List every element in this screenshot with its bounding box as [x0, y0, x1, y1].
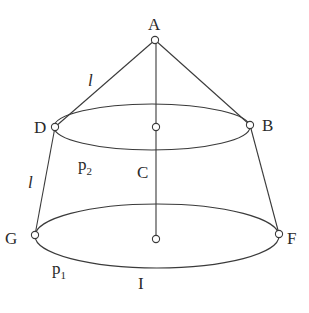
point-F	[275, 230, 282, 237]
label-p1: p1	[52, 259, 66, 281]
label-F: F	[287, 229, 296, 248]
label-B: B	[262, 116, 273, 135]
point-A	[151, 36, 158, 43]
label-A: A	[148, 15, 161, 34]
label-p2: p2	[78, 155, 92, 177]
point-D	[51, 123, 58, 130]
edge-A-D	[55, 40, 155, 127]
label-l-lower: l	[28, 173, 33, 192]
label-D: D	[34, 118, 46, 137]
label-p1-base: p	[52, 259, 61, 278]
label-G: G	[5, 229, 17, 248]
label-l-upper: l	[88, 71, 93, 90]
diagram-svg: A D B C G F I l l p2 p1	[0, 0, 309, 313]
point-G	[31, 231, 38, 238]
point-B	[246, 121, 253, 128]
edge-D-G	[35, 127, 55, 235]
label-p2-base: p	[78, 155, 87, 174]
cone-diagram: A D B C G F I l l p2 p1	[0, 0, 309, 313]
label-p1-sub: 1	[61, 269, 67, 281]
point-top-center	[152, 123, 159, 130]
label-p2-sub: 2	[87, 165, 93, 177]
label-I: I	[138, 274, 144, 293]
point-bottom-center	[152, 235, 159, 242]
label-C: C	[137, 163, 148, 182]
edge-B-F	[250, 125, 279, 234]
edge-A-B	[155, 40, 250, 125]
